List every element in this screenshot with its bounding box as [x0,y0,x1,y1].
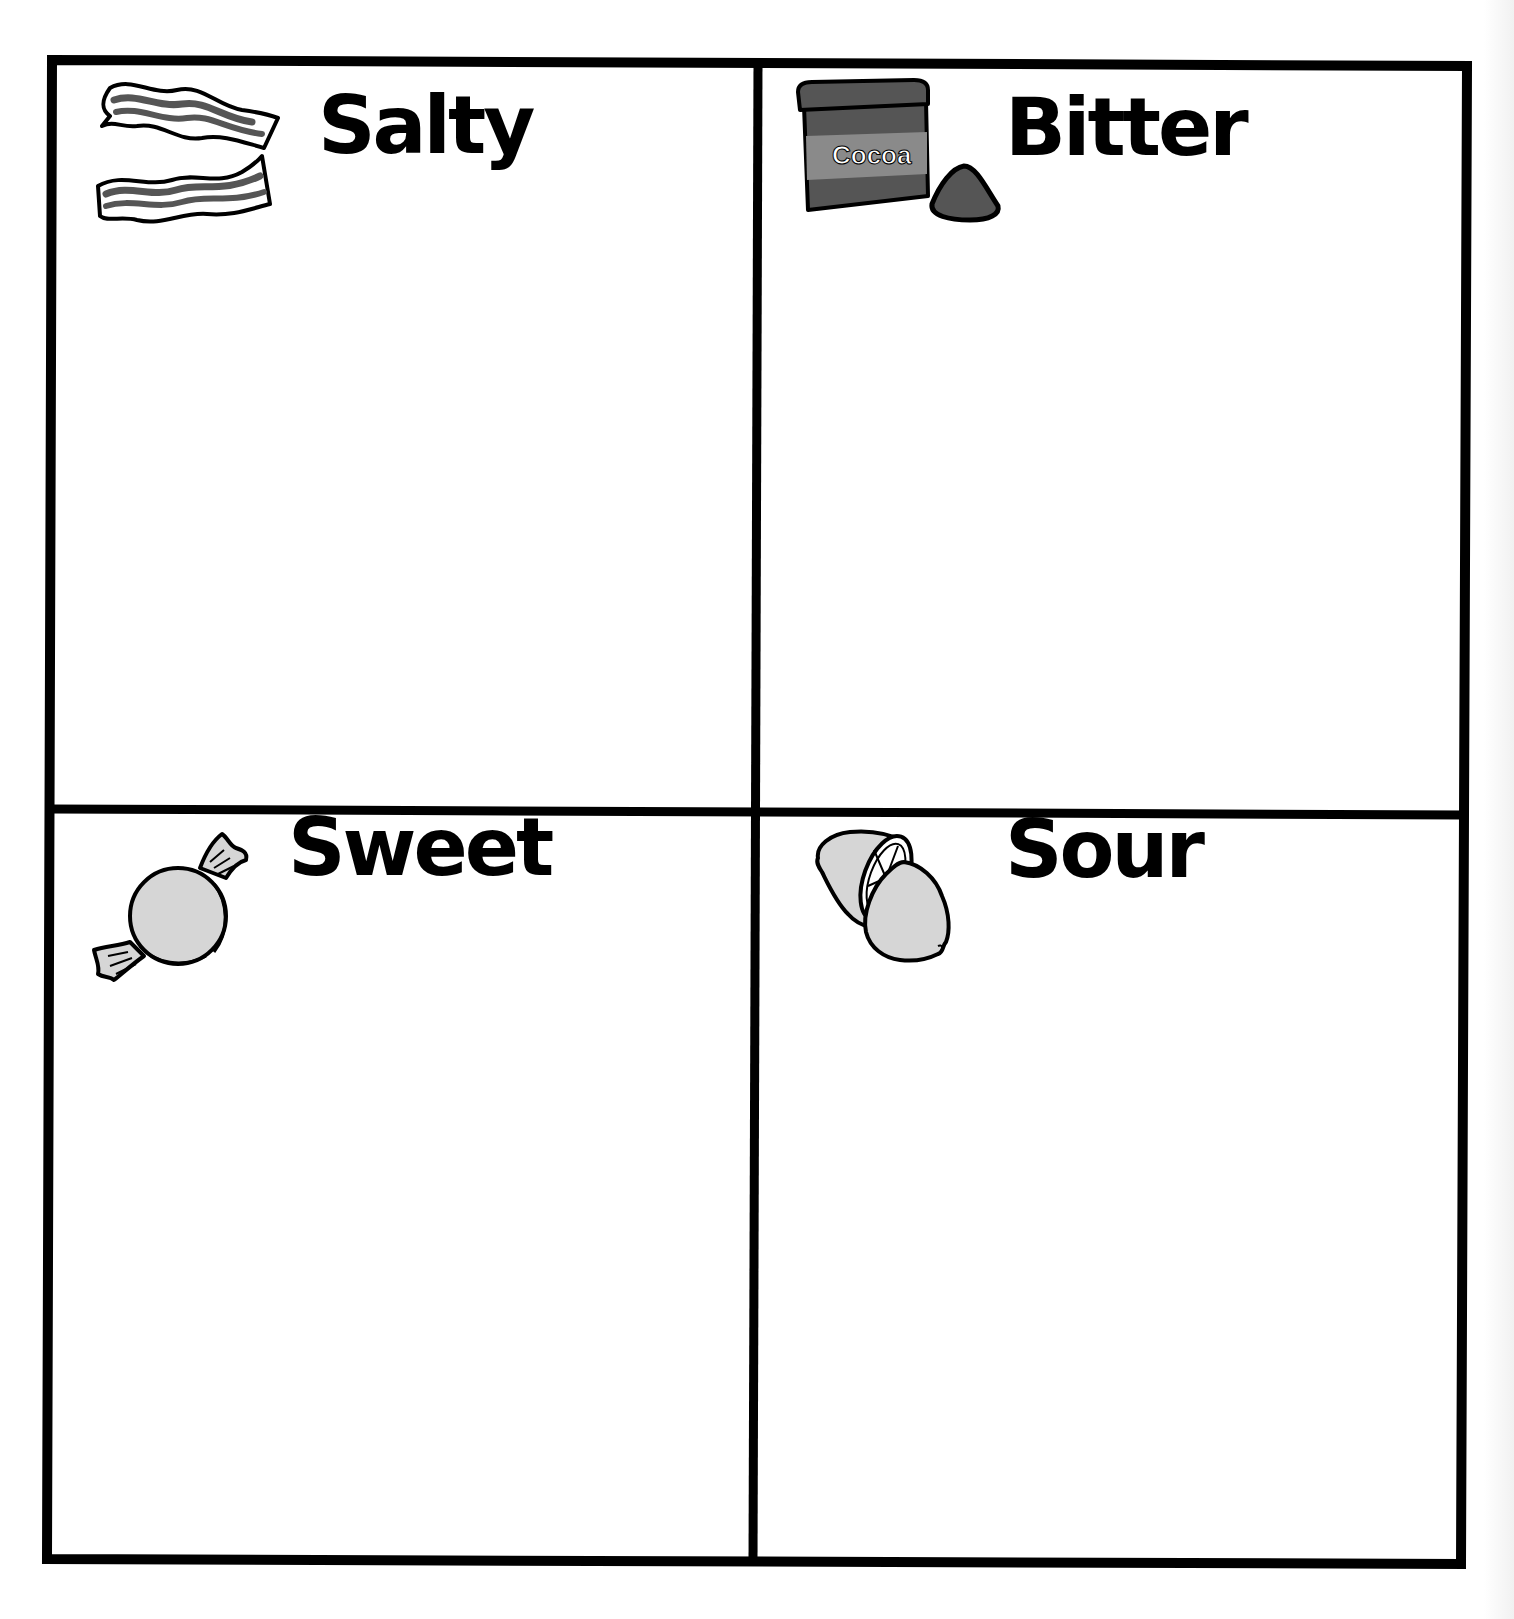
cocoa-tin-icon: Cocoa [790,78,1010,228]
cocoa-tin-text: Cocoa [832,140,912,170]
grid-horizontal-divider [50,809,1464,815]
quadrant-label-bitter: Bitter [1005,88,1246,168]
bacon-icon [92,76,282,226]
wrapped-candy-icon [88,828,258,988]
worksheet-page: Salty Cocoa Bitter S [0,0,1514,1619]
sorting-grid [0,0,1514,1619]
lemon-icon [810,828,980,978]
quadrant-label-sweet: Sweet [288,808,551,888]
quadrant-label-sour: Sour [1005,810,1202,890]
quadrant-label-salty: Salty [318,86,532,166]
